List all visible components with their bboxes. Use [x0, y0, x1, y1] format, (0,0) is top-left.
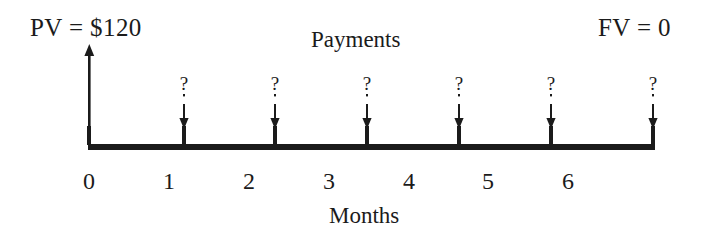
down-arrow-icon	[178, 94, 190, 130]
question-mark-label: ?	[446, 74, 472, 93]
axis-title-label: Months	[329, 203, 399, 229]
question-mark-label: ?	[640, 74, 666, 93]
down-arrow-icon	[647, 94, 659, 130]
payment-mark-month-6: ?	[640, 74, 666, 130]
pv-up-arrow-icon	[84, 44, 94, 146]
question-mark-label: ?	[171, 74, 197, 93]
timeline-bar	[88, 144, 655, 150]
payment-mark-month-1: ?	[171, 74, 197, 130]
tick-label-1: 1	[154, 168, 184, 195]
payment-mark-month-2: ?	[262, 74, 288, 130]
down-arrow-icon	[453, 94, 465, 130]
payment-mark-month-5: ?	[538, 74, 564, 130]
timeline-diagram: PV = $120 Payments FV = 0 ? ?	[0, 0, 715, 246]
tick-label-5: 5	[473, 168, 503, 195]
tick-label-4: 4	[394, 168, 424, 195]
question-mark-label: ?	[538, 74, 564, 93]
tick-label-3: 3	[314, 168, 344, 195]
tick-label-0: 0	[74, 168, 104, 195]
question-mark-label: ?	[262, 74, 288, 93]
question-mark-label: ?	[354, 74, 380, 93]
payment-mark-month-3: ?	[354, 74, 380, 130]
down-arrow-icon	[361, 94, 373, 130]
tick-label-6: 6	[553, 168, 583, 195]
down-arrow-icon	[269, 94, 281, 130]
payment-mark-month-4: ?	[446, 74, 472, 130]
tick-label-2: 2	[234, 168, 264, 195]
down-arrow-icon	[545, 94, 557, 130]
